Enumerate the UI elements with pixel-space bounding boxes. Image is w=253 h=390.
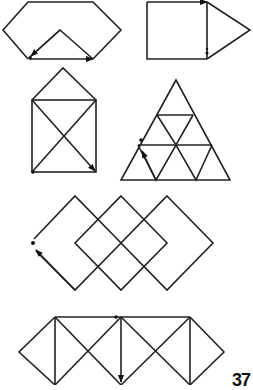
start-dot: [205, 51, 208, 54]
figure-1-hexagon: [3, 2, 121, 60]
figure-3-house: [31, 68, 96, 174]
start-dot: [31, 241, 35, 245]
figure-4-triangle: [121, 80, 230, 180]
start-dot: [139, 138, 143, 142]
start-dot: [31, 170, 35, 174]
figure-2-square-triangle: [147, 2, 250, 59]
start-dot: [28, 56, 32, 60]
start-dot: [114, 315, 118, 319]
figure-6-diamonds-verticals: [19, 315, 224, 385]
figure-5-diamonds: [31, 196, 213, 290]
end-dot: [206, 48, 208, 50]
page-number: 37: [232, 370, 250, 390]
